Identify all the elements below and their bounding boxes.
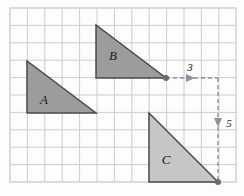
triangle-c-label: C xyxy=(162,152,171,167)
triangle-b-corner-dot xyxy=(163,75,169,81)
triangle-a-label: A xyxy=(39,92,48,107)
geometry-figure: 35ABC xyxy=(0,0,244,196)
triangle-b-label: B xyxy=(109,48,117,63)
figure-canvas: 35ABC xyxy=(0,0,244,196)
vertical-translation-label: 5 xyxy=(226,117,232,129)
horizontal-translation-label: 3 xyxy=(186,61,193,73)
triangle-c-corner-dot xyxy=(215,179,221,185)
